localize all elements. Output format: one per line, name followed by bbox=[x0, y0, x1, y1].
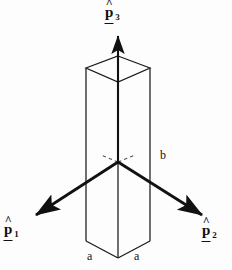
dimension-label-b: b bbox=[160, 149, 166, 161]
figure-canvas: ^ p 3 ^ p 1 ^ p 2 b a a bbox=[0, 0, 232, 270]
axis-label-p3-subscript: 3 bbox=[115, 12, 120, 22]
axis-label-p1: ^ p 1 bbox=[3, 221, 19, 239]
axis-label-p1-symbol: ^ p bbox=[3, 222, 13, 237]
vector-underline-icon bbox=[4, 240, 13, 241]
axis-label-p2: ^ p 2 bbox=[201, 222, 217, 240]
axis-arrow-p1 bbox=[36, 162, 118, 215]
axis-label-p2-subscript: 2 bbox=[212, 230, 217, 240]
hat-accent-icon: ^ bbox=[5, 214, 12, 226]
axis-label-p3-symbol: ^ p bbox=[104, 5, 114, 20]
hidden-bottom-edge-left bbox=[101, 155, 118, 162]
axis-label-p2-symbol: ^ p bbox=[201, 223, 211, 238]
prism-axes-drawing bbox=[0, 0, 232, 270]
dimension-label-a-right: a bbox=[134, 250, 139, 262]
hat-accent-icon: ^ bbox=[203, 215, 210, 227]
axis-arrow-p2 bbox=[118, 162, 202, 215]
hidden-bottom-edge-right bbox=[118, 155, 135, 162]
hat-accent-icon: ^ bbox=[106, 0, 113, 9]
vector-underline-icon bbox=[105, 23, 114, 24]
dimension-label-a-left: a bbox=[87, 250, 92, 262]
axis-label-p3: ^ p 3 bbox=[104, 4, 120, 22]
vector-underline-icon bbox=[202, 241, 211, 242]
axis-label-p1-subscript: 1 bbox=[14, 229, 19, 239]
